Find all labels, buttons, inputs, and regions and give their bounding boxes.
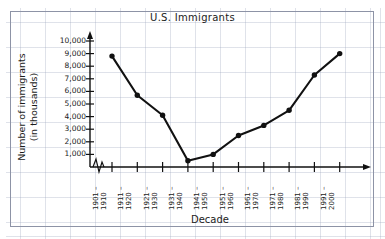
data-point-marker xyxy=(135,93,140,98)
x-axis-title: Decade xyxy=(150,214,270,225)
data-point-marker xyxy=(337,51,342,56)
data-points xyxy=(109,51,342,164)
data-point-marker xyxy=(185,158,190,163)
axes xyxy=(87,31,371,172)
chart-figure: U.S. Immigrants Number of immigrants (in… xyxy=(0,0,385,239)
plot-area xyxy=(0,0,385,239)
axis-break-icon xyxy=(93,159,104,172)
data-point-marker xyxy=(286,108,291,113)
data-point-marker xyxy=(211,152,216,157)
data-point-marker xyxy=(160,113,165,118)
data-point-marker xyxy=(109,53,114,58)
data-line xyxy=(112,54,340,161)
y-axis-arrow xyxy=(87,31,93,39)
data-point-marker xyxy=(236,133,241,138)
data-point-marker xyxy=(261,123,266,128)
data-point-marker xyxy=(312,72,317,77)
x-axis-arrow xyxy=(363,164,371,170)
